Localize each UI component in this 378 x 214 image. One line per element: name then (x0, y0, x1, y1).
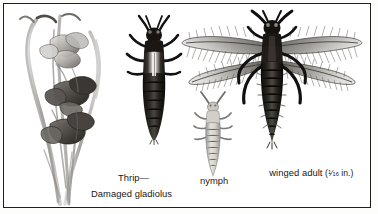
gladiolus-blossom-lower (41, 113, 94, 144)
winged-adult-body (257, 20, 287, 149)
label-wingless-adult-line2: wingless adult (118, 206, 178, 207)
label-winged-adult-measure: (1⁄16 in.) (323, 168, 354, 178)
illustration-plate: Thrip— wingless adult nymph winged adult… (0, 0, 378, 214)
gladiolus-blossom-upper (40, 33, 89, 68)
wingless-body (143, 28, 166, 146)
gladiolus-leaf-tips (20, 14, 80, 22)
plate-frame: Thrip— wingless adult nymph winged adult… (3, 3, 371, 208)
label-winged-adult: winged adult (1⁄16 in.) (248, 156, 353, 191)
label-damaged-gladiolus: Damaged gladiolus (91, 188, 172, 199)
label-winged-adult-text: winged adult (269, 167, 322, 178)
figure-damaged-gladiolus (10, 10, 114, 206)
label-nymph: nymph (200, 175, 228, 186)
figure-winged-adult-thrip (176, 9, 368, 151)
label-wingless-adult-line1: Thrip— (118, 172, 178, 183)
measure-unit: in.) (339, 168, 354, 178)
plate-canvas: Thrip— wingless adult nymph winged adult… (4, 4, 370, 207)
